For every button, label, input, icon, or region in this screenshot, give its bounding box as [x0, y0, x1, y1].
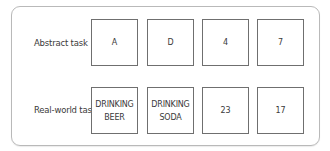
card-abstract-1[interactable]: A	[91, 19, 138, 66]
card-real-world-3[interactable]: 23	[202, 87, 249, 134]
card-text: 4	[223, 36, 228, 49]
card-text: 23	[221, 104, 231, 117]
card-text: 17	[276, 104, 286, 117]
card-real-world-2[interactable]: DRINKINGSODA	[147, 87, 194, 134]
card-text-2: BEER	[95, 111, 133, 124]
card-abstract-2[interactable]: D	[147, 19, 194, 66]
card-text: DRINKING	[95, 98, 133, 111]
card-text: 7	[278, 36, 283, 49]
card-text: A	[112, 36, 117, 49]
card-abstract-4[interactable]: 7	[257, 19, 304, 66]
row-label-real-world: Real-world task	[34, 105, 96, 115]
card-real-world-4[interactable]: 17	[257, 87, 304, 134]
card-real-world-1[interactable]: DRINKINGBEER	[91, 87, 138, 134]
card-text: DRINKING	[151, 98, 189, 111]
row-label-abstract: Abstract task	[34, 38, 88, 48]
card-text-2: SODA	[151, 111, 189, 124]
card-text: D	[168, 36, 174, 49]
card-abstract-3[interactable]: 4	[202, 19, 249, 66]
